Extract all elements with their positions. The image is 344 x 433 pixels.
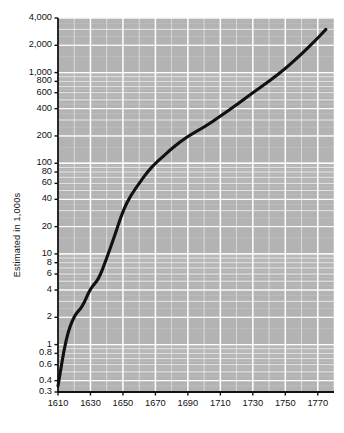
population-growth-chart: Estimated in 1,000s 4,0002,0001,00080060…	[0, 0, 344, 433]
x-axis-tick-labels: 161016301650167016901710173017501770	[0, 0, 344, 433]
x-tick-label: 1770	[298, 399, 338, 408]
